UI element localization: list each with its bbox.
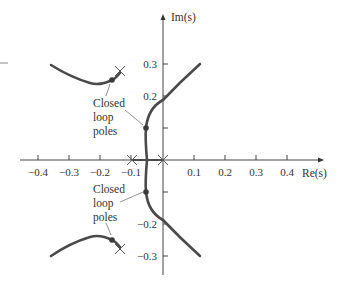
annotation-upper: Closed loop poles (93, 84, 143, 138)
y-axis-label: Im(s) (171, 11, 196, 24)
x-tick-label: 0.2 (218, 166, 232, 178)
x-tick-label: 0.4 (280, 166, 294, 178)
x-tick-label: 0.3 (249, 166, 263, 178)
axes (20, 14, 324, 275)
leader-line (125, 110, 143, 125)
leader-line (106, 84, 110, 96)
annotation-text: Closed (93, 183, 125, 195)
x-axis-label: Re(s) (302, 167, 327, 180)
x-tick-labels: −0.4 −0.3 −0.2 −0.1 0.1 0.2 0.3 0.4 (28, 166, 294, 178)
y-tick-label: −0.2 (137, 218, 157, 230)
closed-loop-pole-dot (143, 125, 149, 131)
annotation-text: loop (93, 197, 114, 210)
annotation-text: Closed (93, 97, 125, 109)
closed-loop-pole-dot (109, 237, 115, 243)
upper-real-branch (146, 64, 200, 160)
annotation-lower: Closed loop poles (93, 183, 143, 235)
y-axis-arrow-icon (161, 14, 166, 20)
y-tick-label: 0.3 (143, 58, 157, 70)
y-tick-label: −0.3 (137, 250, 157, 262)
closed-loop-pole-dot (143, 189, 149, 195)
x-tick-label: −0.1 (121, 166, 141, 178)
annotation-text: poles (93, 125, 118, 138)
closed-loop-pole-dot (109, 77, 115, 83)
annotation-text: loop (93, 111, 114, 124)
annotation-text: poles (93, 211, 118, 224)
y-tick-label: 0.2 (143, 90, 157, 102)
x-tick-label: −0.3 (59, 166, 79, 178)
x-tick-label: −0.2 (90, 166, 110, 178)
x-axis-arrow-icon (318, 158, 324, 163)
x-tick-label: 0.1 (187, 166, 201, 178)
x-tick-label: −0.4 (28, 166, 48, 178)
leader-line (106, 223, 111, 235)
root-locus-chart: −0.4 −0.3 −0.2 −0.1 0.1 0.2 0.3 0.4 0.3 … (0, 0, 344, 291)
